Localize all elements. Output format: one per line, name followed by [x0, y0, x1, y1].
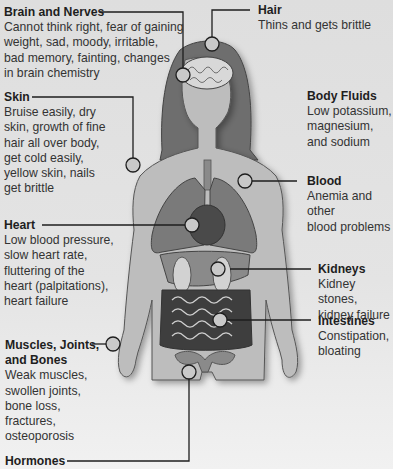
label-title: Hormones: [5, 454, 65, 469]
label-line: skin, growth of fine: [4, 120, 106, 135]
label-intestines: Intestines Constipation, bloating: [318, 314, 389, 360]
skin-callout: [126, 158, 140, 172]
label-brain: Brain and Nerves Cannot think right, fea…: [4, 5, 184, 81]
label-title: Brain and Nerves: [4, 5, 184, 20]
label-line: in brain chemistry: [4, 66, 184, 81]
label-line: get cold easily,: [4, 151, 106, 166]
hair-leader: [212, 10, 250, 42]
hair-callout: [205, 37, 219, 51]
label-line: bloating: [318, 344, 389, 359]
heart-callout: [185, 218, 199, 232]
label-line: blood problems: [307, 220, 393, 235]
label-heart: Heart Low blood pressure, slow heart rat…: [4, 218, 114, 309]
label-title: and Bones: [5, 353, 99, 368]
label-line: Thins and gets brittle: [258, 18, 371, 33]
label-line: weight, sad, moody, irritable,: [4, 35, 184, 50]
hormones-callout: [182, 365, 196, 379]
label-hair: Hair Thins and gets brittle: [258, 3, 371, 33]
intestines-callout: [213, 313, 227, 327]
label-body-fluids: Body Fluids Low potassium, magnesium, an…: [307, 89, 392, 150]
label-line: bone loss,: [5, 399, 99, 414]
label-line: and sodium: [307, 135, 392, 150]
label-line: slow heart rate,: [4, 248, 114, 263]
label-skin: Skin Bruise easily, dry skin, growth of …: [4, 90, 106, 196]
label-line: Low potassium,: [307, 104, 392, 119]
label-title: Blood: [307, 174, 393, 189]
label-muscles: Muscles, Joints, and Bones Weak muscles,…: [5, 338, 99, 444]
label-title: Heart: [4, 218, 114, 233]
label-hormones: Hormones: [5, 454, 65, 469]
label-title: Body Fluids: [307, 89, 392, 104]
label-line: Cannot think right, fear of gaining: [4, 20, 184, 35]
label-line: yellow skin, nails: [4, 166, 106, 181]
label-line: Low blood pressure,: [4, 233, 114, 248]
label-line: bad memory, fainting, changes: [4, 51, 184, 66]
label-line: Bruise easily, dry: [4, 105, 106, 120]
label-line: hair all over body,: [4, 136, 106, 151]
label-line: osteoporosis: [5, 429, 99, 444]
label-title: Intestines: [318, 314, 389, 329]
label-line: swollen joints,: [5, 384, 99, 399]
label-title: Skin: [4, 90, 106, 105]
label-line: Weak muscles,: [5, 368, 99, 383]
kidneys-callout: [211, 262, 225, 276]
label-line: fractures,: [5, 414, 99, 429]
label-line: Anemia and other: [307, 189, 393, 219]
muscles-callout: [106, 337, 120, 351]
label-blood: Blood Anemia and other blood problems: [307, 174, 393, 235]
label-line: heart (palpitations),: [4, 279, 114, 294]
label-line: Kidney stones,: [318, 277, 393, 307]
label-title: Hair: [258, 3, 371, 18]
blood-callout: [238, 174, 252, 188]
kidney-left: [173, 257, 191, 293]
label-line: get brittle: [4, 181, 106, 196]
label-line: heart failure: [4, 294, 114, 309]
label-line: magnesium,: [307, 119, 392, 134]
label-title: Kidneys: [318, 262, 393, 277]
label-line: Constipation,: [318, 329, 389, 344]
label-line: fluttering of the: [4, 264, 114, 279]
label-title: Muscles, Joints,: [5, 338, 99, 353]
